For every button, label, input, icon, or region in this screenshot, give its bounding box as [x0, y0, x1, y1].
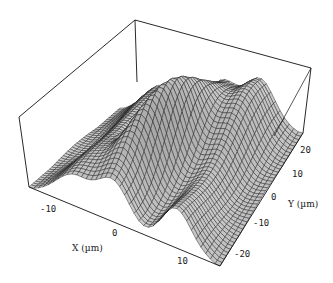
x-tick-label: -10	[40, 204, 56, 214]
x-tick-label: 10	[177, 256, 188, 266]
surface-mesh	[29, 76, 303, 266]
y-tick-label: 20	[300, 145, 311, 155]
y-tick-label: 0	[271, 192, 276, 202]
surface-plot: -10 0 10 X (µm) 20 10 0 -10 -20 Y (µm)	[0, 0, 333, 283]
y-tick-label: 10	[292, 169, 303, 179]
y-axis-title: Y (µm)	[287, 199, 318, 209]
x-axis-title: X (µm)	[72, 243, 103, 253]
plot-canvas: -10 0 10 X (µm) 20 10 0 -10 -20 Y (µm)	[0, 0, 333, 283]
y-tick-label: -10	[253, 218, 269, 228]
y-tick-label: -20	[234, 249, 250, 259]
x-tick-label: 0	[112, 228, 117, 238]
